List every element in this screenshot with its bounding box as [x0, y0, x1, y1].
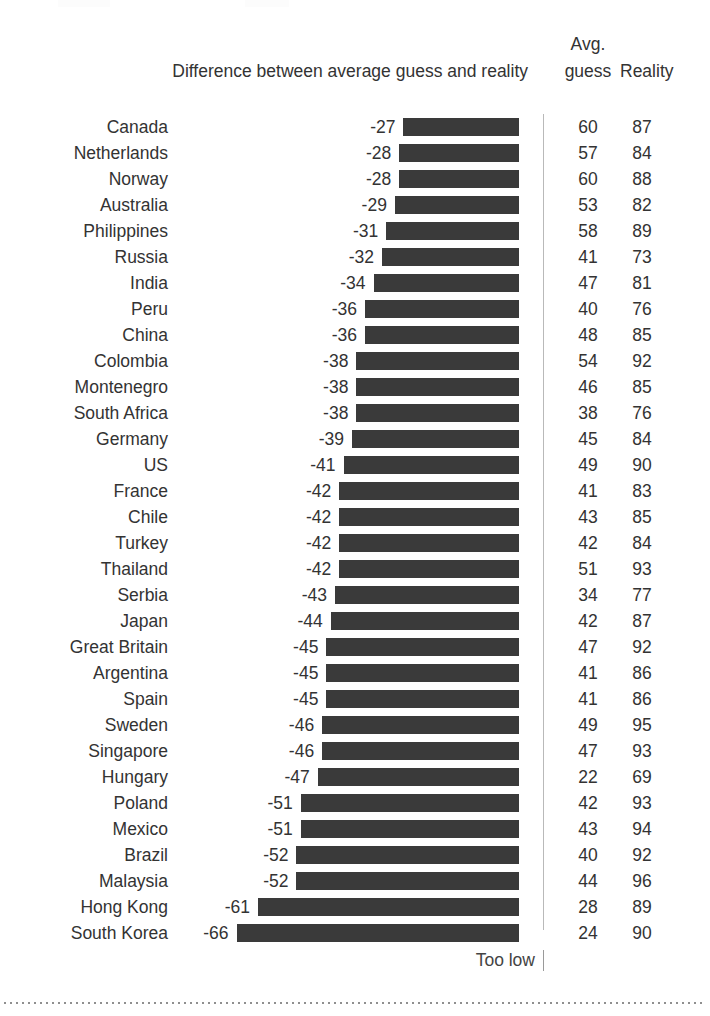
row-avg-guess-value: 46	[560, 377, 616, 398]
row-reality-value: 85	[620, 325, 664, 346]
row-bar	[339, 508, 519, 526]
chart-row: Malaysia-524496	[0, 868, 710, 894]
row-bar	[301, 820, 519, 838]
chart-row: Philippines-315889	[0, 218, 710, 244]
row-reality-value: 93	[620, 793, 664, 814]
row-country-label: Sweden	[0, 715, 168, 736]
chart-rows: Canada-276087Netherlands-285784Norway-28…	[0, 114, 710, 946]
row-bar-area: -31	[176, 218, 524, 244]
row-reality-value: 86	[620, 663, 664, 684]
row-bar	[395, 196, 519, 214]
chart-row: Poland-514293	[0, 790, 710, 816]
row-reality-value: 89	[620, 897, 664, 918]
row-bar-area: -42	[176, 504, 524, 530]
row-avg-guess-value: 42	[560, 533, 616, 554]
row-avg-guess-value: 53	[560, 195, 616, 216]
row-bar-area: -42	[176, 556, 524, 582]
row-avg-guess-value: 28	[560, 897, 616, 918]
row-country-label: Poland	[0, 793, 168, 814]
chart-row: France-424183	[0, 478, 710, 504]
row-avg-guess-value: 58	[560, 221, 616, 242]
row-bar-area: -38	[176, 348, 524, 374]
row-bar-area: -42	[176, 530, 524, 556]
chart-row: Argentina-454186	[0, 660, 710, 686]
row-country-label: Philippines	[0, 221, 168, 242]
row-reality-value: 92	[620, 351, 664, 372]
row-bar-area: -47	[176, 764, 524, 790]
chart-row: Netherlands-285784	[0, 140, 710, 166]
row-difference-value: -66	[203, 923, 228, 944]
row-difference-value: -51	[267, 819, 292, 840]
row-difference-value: -52	[263, 845, 288, 866]
chart-row: South Korea-662490	[0, 920, 710, 946]
chart-header: Difference between average guess and rea…	[0, 34, 710, 96]
chart-row: Russia-324173	[0, 244, 710, 270]
row-country-label: India	[0, 273, 168, 294]
row-country-label: Peru	[0, 299, 168, 320]
row-bar	[365, 326, 519, 344]
row-bar	[326, 690, 519, 708]
row-difference-value: -28	[366, 143, 391, 164]
row-avg-guess-value: 54	[560, 351, 616, 372]
chart-row: Germany-394584	[0, 426, 710, 452]
chart-row: Hungary-472269	[0, 764, 710, 790]
row-difference-value: -45	[293, 689, 318, 710]
chart-row: Peru-364076	[0, 296, 710, 322]
row-avg-guess-value: 60	[560, 169, 616, 190]
row-reality-value: 93	[620, 741, 664, 762]
row-bar-area: -38	[176, 374, 524, 400]
row-country-label: Australia	[0, 195, 168, 216]
row-difference-value: -29	[362, 195, 387, 216]
row-avg-guess-value: 41	[560, 247, 616, 268]
row-bar	[344, 456, 520, 474]
row-bar-area: -52	[176, 842, 524, 868]
row-country-label: US	[0, 455, 168, 476]
row-bar	[322, 716, 519, 734]
row-difference-value: -36	[332, 299, 357, 320]
row-avg-guess-value: 40	[560, 845, 616, 866]
row-reality-value: 86	[620, 689, 664, 710]
row-difference-value: -42	[306, 481, 331, 502]
row-country-label: Hungary	[0, 767, 168, 788]
row-difference-value: -42	[306, 559, 331, 580]
row-country-label: Norway	[0, 169, 168, 190]
row-bar	[356, 352, 519, 370]
chart-row: US-414990	[0, 452, 710, 478]
row-difference-value: -27	[370, 117, 395, 138]
row-bar	[374, 274, 520, 292]
row-avg-guess-value: 57	[560, 143, 616, 164]
row-reality-value: 93	[620, 559, 664, 580]
row-country-label: Argentina	[0, 663, 168, 684]
row-bar-area: -27	[176, 114, 524, 140]
row-country-label: Great Britain	[0, 637, 168, 658]
row-avg-guess-value: 34	[560, 585, 616, 606]
row-bar-area: -39	[176, 426, 524, 452]
row-difference-value: -42	[306, 507, 331, 528]
row-difference-value: -45	[293, 663, 318, 684]
row-bar	[322, 742, 519, 760]
row-avg-guess-value: 42	[560, 793, 616, 814]
row-country-label: Spain	[0, 689, 168, 710]
row-avg-guess-value: 49	[560, 455, 616, 476]
row-bar-area: -28	[176, 166, 524, 192]
row-difference-value: -39	[319, 429, 344, 450]
chart-row: Japan-444287	[0, 608, 710, 634]
too-low-annotation: Too low	[0, 950, 535, 971]
chart-row: Brazil-524092	[0, 842, 710, 868]
chart-row: Montenegro-384685	[0, 374, 710, 400]
row-avg-guess-value: 43	[560, 819, 616, 840]
row-avg-guess-value: 22	[560, 767, 616, 788]
row-bar-area: -52	[176, 868, 524, 894]
row-difference-value: -52	[263, 871, 288, 892]
row-reality-value: 84	[620, 429, 664, 450]
row-bar-area: -45	[176, 634, 524, 660]
row-difference-value: -42	[306, 533, 331, 554]
row-reality-value: 92	[620, 845, 664, 866]
row-bar	[365, 300, 519, 318]
row-reality-value: 90	[620, 455, 664, 476]
row-bar	[356, 378, 519, 396]
row-difference-value: -31	[353, 221, 378, 242]
row-reality-value: 89	[620, 221, 664, 242]
row-bar-area: -51	[176, 790, 524, 816]
row-avg-guess-value: 60	[560, 117, 616, 138]
